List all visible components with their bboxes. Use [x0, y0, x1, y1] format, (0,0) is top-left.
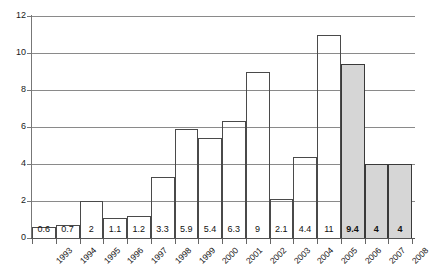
- x-axis-tick: [293, 239, 294, 244]
- x-axis-tick: [270, 239, 271, 244]
- x-axis-tick: [341, 239, 342, 244]
- bar-1999[interactable]: 5.9: [175, 129, 199, 238]
- y-axis-label: 12: [16, 11, 26, 20]
- bar-value-label: 5.4: [199, 224, 221, 234]
- x-axis-label-2007: 2007: [387, 246, 407, 266]
- bar-2007[interactable]: 4: [365, 164, 389, 238]
- x-axis-tick: [388, 239, 389, 244]
- bar-2006[interactable]: 9.4: [341, 64, 365, 238]
- y-axis-label: 2: [21, 196, 26, 205]
- bar-value-label: 1.1: [104, 224, 126, 234]
- y-axis-label: 0: [21, 233, 26, 242]
- x-axis-label-1998: 1998: [173, 246, 193, 266]
- x-axis-tick: [317, 239, 318, 244]
- x-axis-label-1994: 1994: [78, 246, 98, 266]
- bar-value-label: 4: [389, 224, 411, 234]
- x-axis-label-2003: 2003: [292, 246, 312, 266]
- bar-series: 0.60.721.11.23.35.95.46.392.14.4119.444: [32, 16, 412, 238]
- x-axis-tick: [56, 239, 57, 244]
- x-axis-tick: [127, 239, 128, 244]
- bar-value-label: 4.4: [294, 224, 316, 234]
- y-axis-label: 4: [21, 159, 26, 168]
- x-axis-label-2002: 2002: [268, 246, 288, 266]
- bar-2008[interactable]: 4: [388, 164, 412, 238]
- bar-2000[interactable]: 5.4: [198, 138, 222, 238]
- y-axis-label: 10: [16, 48, 26, 57]
- x-axis-tick: [412, 239, 413, 244]
- bar-value-label: 9.4: [342, 224, 364, 234]
- bar-value-label: 5.9: [176, 224, 198, 234]
- x-axis-tick: [246, 239, 247, 244]
- bar-1995[interactable]: 2: [80, 201, 104, 238]
- bar-1997[interactable]: 1.2: [127, 216, 151, 238]
- bar-value-label: 0.6: [33, 224, 55, 234]
- bar-1993[interactable]: 0.6: [32, 227, 56, 238]
- x-axis-label-2001: 2001: [245, 246, 265, 266]
- x-axis-label-1996: 1996: [126, 246, 146, 266]
- x-axis-label-1997: 1997: [150, 246, 170, 266]
- x-axis-tick: [80, 239, 81, 244]
- bar-value-label: 0.7: [57, 224, 79, 234]
- y-axis-label: 6: [21, 122, 26, 131]
- bar-1994[interactable]: 0.7: [56, 225, 80, 238]
- bar-value-label: 4: [366, 224, 388, 234]
- bar-value-label: 11: [318, 224, 340, 234]
- plot-area: 0.60.721.11.23.35.95.46.392.14.4119.444: [32, 16, 412, 238]
- bar-2002[interactable]: 9: [246, 72, 270, 239]
- bar-value-label: 2.1: [271, 224, 293, 234]
- x-axis-label-1999: 1999: [197, 246, 217, 266]
- x-axis-label-2005: 2005: [340, 246, 360, 266]
- x-axis-tick: [365, 239, 366, 244]
- x-axis-label-2004: 2004: [316, 246, 336, 266]
- x-axis-label-1993: 1993: [55, 246, 75, 266]
- bar-1996[interactable]: 1.1: [103, 218, 127, 238]
- x-axis-label-1995: 1995: [102, 246, 122, 266]
- y-axis-label: 8: [21, 85, 26, 94]
- x-axis-label-2006: 2006: [363, 246, 383, 266]
- x-axis-tick: [175, 239, 176, 244]
- x-axis-label-2000: 2000: [221, 246, 241, 266]
- bar-2003[interactable]: 2.1: [270, 199, 294, 238]
- x-axis-tick: [222, 239, 223, 244]
- bar-value-label: 1.2: [128, 224, 150, 234]
- bar-2004[interactable]: 4.4: [293, 157, 317, 238]
- bar-1998[interactable]: 3.3: [151, 177, 175, 238]
- x-axis-label-2008: 2008: [411, 246, 431, 266]
- x-axis-tick: [198, 239, 199, 244]
- x-axis-tick: [151, 239, 152, 244]
- x-axis-tick: [103, 239, 104, 244]
- bar-value-label: 9: [247, 224, 269, 234]
- bar-value-label: 2: [81, 224, 103, 234]
- x-axis-tick: [32, 239, 33, 244]
- bar-value-label: 6.3: [223, 224, 245, 234]
- bar-value-label: 3.3: [152, 224, 174, 234]
- bar-2001[interactable]: 6.3: [222, 121, 246, 238]
- bar-2005[interactable]: 11: [317, 35, 341, 239]
